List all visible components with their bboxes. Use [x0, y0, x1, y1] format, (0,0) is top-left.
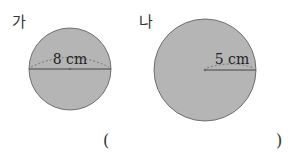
- circle-b-measure: 5 cm: [215, 51, 249, 67]
- circles-diagram: 8 cm 5 cm: [0, 0, 288, 163]
- circle-b-center: [204, 69, 206, 71]
- answer-open-paren: (: [103, 131, 109, 150]
- circle-a-measure: 8 cm: [53, 51, 87, 67]
- circle-a-center: [69, 68, 71, 70]
- answer-close-paren: ): [276, 131, 282, 150]
